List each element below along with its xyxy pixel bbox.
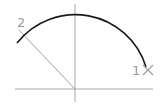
radial-line bbox=[19, 30, 75, 89]
arc-diagram: 1 2 bbox=[0, 0, 163, 106]
arc-curve bbox=[17, 15, 146, 67]
point-1-cross-icon bbox=[143, 65, 153, 75]
point-1-label: 1 bbox=[132, 63, 140, 78]
point-2-label: 2 bbox=[17, 15, 25, 30]
